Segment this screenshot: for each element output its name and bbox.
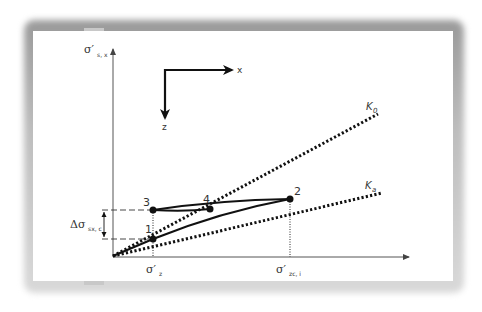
ka-label: K a xyxy=(365,180,376,194)
inset-x-label: x xyxy=(237,65,243,75)
point-4-label: 4 xyxy=(203,193,210,206)
point-2 xyxy=(287,196,294,203)
svg-text:σ′: σ′ xyxy=(146,263,157,276)
sigma-z-tick-label: σ′ z xyxy=(146,263,162,277)
svg-text:0: 0 xyxy=(373,107,378,115)
diagram-stage: σ′ s, x x z K 0 K a xyxy=(0,0,482,312)
stress-path-diagram: σ′ s, x x z K 0 K a xyxy=(0,0,482,312)
k0-label: K 0 xyxy=(366,101,378,115)
svg-text:zc, i: zc, i xyxy=(289,270,301,277)
unloading-path xyxy=(153,199,290,210)
k0-line xyxy=(113,114,378,256)
ka-line xyxy=(113,193,382,256)
point-2-label: 2 xyxy=(294,185,301,198)
svg-text:σ′: σ′ xyxy=(84,43,95,56)
svg-text:z: z xyxy=(159,270,162,277)
y-axis-label: σ′ s, x xyxy=(84,43,108,58)
inset-z-label: z xyxy=(162,122,167,132)
point-3 xyxy=(150,207,157,214)
svg-text:sx, c: sx, c xyxy=(88,225,102,232)
loading-path xyxy=(113,199,290,256)
point-1-label: 1 xyxy=(145,223,152,236)
svg-text:Δσ: Δσ xyxy=(70,218,86,231)
point-4 xyxy=(207,206,214,213)
point-3-label: 3 xyxy=(143,196,150,209)
svg-text:a: a xyxy=(372,186,376,194)
svg-text:s, x: s, x xyxy=(97,51,108,58)
sigma-zci-tick-label: σ′ zc, i xyxy=(276,263,301,277)
point-1 xyxy=(150,236,157,243)
svg-text:σ′: σ′ xyxy=(276,263,287,276)
delta-sigma-label: Δσ sx, c xyxy=(70,218,102,232)
xz-orientation-inset: x z xyxy=(162,65,243,132)
